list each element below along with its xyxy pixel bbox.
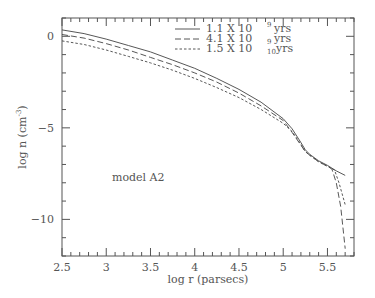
curve-long-dash (62, 35, 345, 249)
curve-solid (62, 30, 345, 176)
legend-exponent: 9 (267, 38, 271, 46)
x-tick-label: 3 (103, 261, 110, 274)
y-tick-label: 0 (47, 30, 54, 43)
legend-unit: yrs (275, 42, 293, 55)
x-tick-label: 3.5 (142, 261, 160, 274)
chart: 2.533.544.555.5 0−5−10 log r (parsecs) l… (0, 0, 375, 298)
y-axis-label-main: log n (cm (16, 116, 29, 169)
legend-exponent: 10 (267, 48, 276, 56)
x-tick-label: 5.5 (319, 261, 337, 274)
y-axis-label-sup: -3 (15, 110, 23, 117)
y-axis-label-close: ) (16, 105, 29, 109)
y-tick-label: −5 (38, 122, 54, 135)
x-tick-label: 2.5 (53, 261, 71, 274)
x-axis-label: log r (parsecs) (168, 273, 249, 286)
y-axis-label: log n (cm-3) (15, 105, 29, 168)
legend-exponent: 9 (267, 21, 271, 29)
x-tick-label: 5 (280, 261, 287, 274)
y-tick-labels: 0−5−10 (31, 30, 54, 226)
y-tick-label: −10 (31, 213, 54, 226)
model-annotation: model A2 (112, 171, 165, 184)
legend-label: 1.5 X 10 (206, 42, 252, 55)
data-curves (62, 30, 345, 249)
svg-text:log n (cm-3): log n (cm-3) (15, 105, 29, 168)
curve-short-dash (62, 41, 345, 205)
legend: 1.1 X 109yrs4.1 X 109yrs1.5 X 1010yrs (175, 21, 293, 56)
